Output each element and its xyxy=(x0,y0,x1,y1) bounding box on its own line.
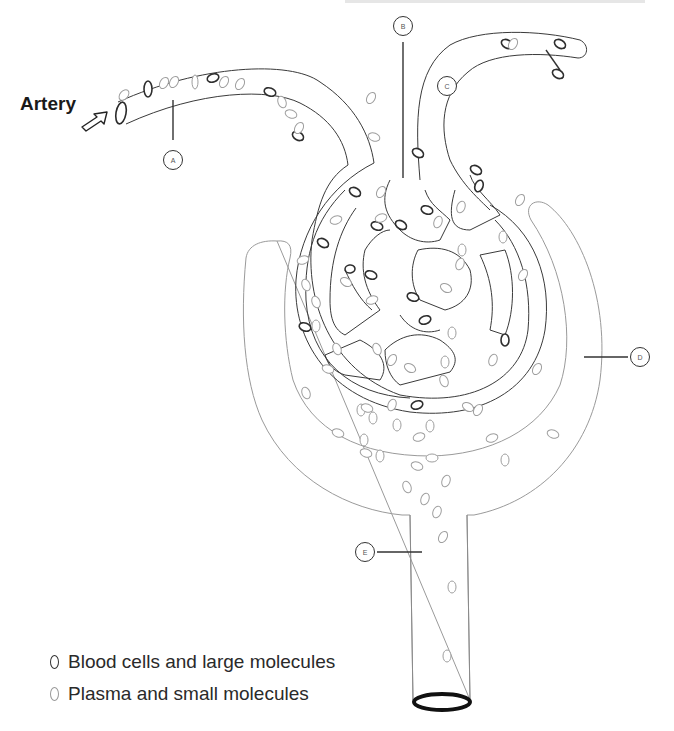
arrow-icon xyxy=(82,112,107,131)
legend-label-blood-cells: Blood cells and large molecules xyxy=(68,651,335,673)
blood-cell-icon xyxy=(553,38,567,51)
blood-cell-icon xyxy=(551,68,565,81)
plasma-molecule-icon xyxy=(401,480,413,494)
plasma-molecule-icon xyxy=(312,320,320,332)
plasma-molecule-icon xyxy=(371,342,383,356)
plasma-molecule-icon xyxy=(485,432,499,444)
legend-label-plasma: Plasma and small molecules xyxy=(68,683,309,705)
plasma-molecule-icon xyxy=(339,276,353,289)
blood-cell-icon xyxy=(418,314,432,326)
plasma-molecule-icon xyxy=(448,581,456,593)
light-cell-icon xyxy=(50,687,59,701)
marker-e: E xyxy=(355,542,375,562)
plasma-molecule-icon xyxy=(439,282,453,295)
plasma-molecule-icon xyxy=(546,428,560,440)
plasma-molecule-icon xyxy=(360,434,368,446)
afferent-arteriole xyxy=(118,69,374,165)
blood-cell-icon xyxy=(263,86,277,98)
plasma-molecule-icon xyxy=(331,342,343,356)
plasma-molecule-icon xyxy=(376,450,384,462)
blood-cell-icon xyxy=(473,179,485,193)
plasma-molecule-icon xyxy=(514,193,527,207)
plasma-molecule-icon xyxy=(386,353,399,367)
plasma-molecule-icon xyxy=(438,374,450,388)
marker-a-letter: A xyxy=(171,157,176,164)
plasma-molecule-icon xyxy=(440,474,452,488)
legend-item-plasma: Plasma and small molecules xyxy=(50,683,309,705)
plasma-molecule-icon xyxy=(431,505,443,519)
legend-item-blood-cells: Blood cells and large molecules xyxy=(50,651,335,673)
tubule-opening xyxy=(414,694,470,710)
marker-a: A xyxy=(163,150,183,170)
bowmans-capsule-outline xyxy=(243,202,602,700)
plasma-molecule-icon xyxy=(454,257,466,271)
plasma-molecule-icon xyxy=(432,215,444,229)
plasma-molecule-icon xyxy=(365,91,378,105)
marker-e-letter: E xyxy=(363,549,368,556)
plasma-molecule-icon xyxy=(393,419,401,431)
blood-cell-icon xyxy=(394,219,408,232)
plasma-molecule-icon xyxy=(403,362,417,375)
plasma-molecule-icon xyxy=(458,244,466,256)
plasma-molecule-icon xyxy=(375,185,388,199)
capillary-loops xyxy=(325,175,513,385)
plasma-molecule-icon xyxy=(168,75,181,89)
plasma-molecule-icon xyxy=(531,362,544,376)
blood-cell-icon xyxy=(411,147,425,160)
plasma-molecule-icon xyxy=(426,420,434,432)
plasma-molecule-icon xyxy=(443,650,451,662)
plasma-molecule-icon xyxy=(499,231,507,243)
plasma-molecule-icon xyxy=(487,353,499,367)
marker-c-letter: C xyxy=(444,83,449,90)
plasma-molecule-icon xyxy=(234,77,247,91)
marker-b: B xyxy=(393,16,413,36)
plasma-molecule-icon xyxy=(448,327,456,339)
blood-cell-icon xyxy=(344,264,355,274)
marker-b-letter: B xyxy=(401,23,406,30)
plasma-molecule-icon xyxy=(300,278,312,292)
marker-d: D xyxy=(630,347,650,367)
blood-cell-icon xyxy=(144,81,152,97)
plasma-molecule-icon xyxy=(410,460,424,472)
plasma-molecule-icon xyxy=(284,108,298,120)
dark-cell-icon xyxy=(50,655,59,669)
blood-cell-icon xyxy=(469,164,483,177)
plasma-molecule-icon xyxy=(329,214,343,226)
arteriole-opening xyxy=(114,101,128,124)
blood-cell-icon xyxy=(316,237,330,250)
plasma-molecule-icon xyxy=(517,268,530,282)
blood-cell-icon xyxy=(501,334,509,346)
plasma-molecule-icon xyxy=(310,295,322,309)
plasma-molecule-icon xyxy=(365,294,379,306)
blood-cell-icon xyxy=(364,269,378,281)
blood-cell-icon xyxy=(420,204,434,216)
marker-d-letter: D xyxy=(637,354,642,361)
blood-cell-icon xyxy=(348,186,362,199)
efferent-arteriole xyxy=(418,32,587,210)
plasma-molecule-icon xyxy=(455,200,467,214)
blood-cell-icon xyxy=(410,399,424,411)
plasma-molecule-icon xyxy=(441,356,449,368)
marker-c: C xyxy=(437,76,457,96)
plasma-molecule-icon xyxy=(419,492,431,506)
plasma-molecule-icon xyxy=(369,412,377,424)
blood-cells-group xyxy=(144,38,567,411)
plasma-molecule-icon xyxy=(386,398,398,412)
artery-label: Artery xyxy=(20,93,76,115)
blood-cell-icon xyxy=(406,291,420,303)
nephron-diagram xyxy=(0,0,674,731)
plasma-molecule-icon xyxy=(437,530,450,544)
plasma-molecule-icon xyxy=(276,95,288,109)
plasma-molecule-icon xyxy=(501,454,509,466)
plasma-molecule-icon xyxy=(117,88,131,102)
leader-line-c xyxy=(546,50,560,70)
plasma-molecule-icon xyxy=(158,76,171,90)
plasma-molecule-icon xyxy=(300,386,312,400)
plasma-molecule-icon xyxy=(192,75,198,89)
plasma-molecules-group xyxy=(117,37,560,662)
plasma-molecule-icon xyxy=(412,431,426,443)
plasma-molecule-icon xyxy=(426,454,438,462)
